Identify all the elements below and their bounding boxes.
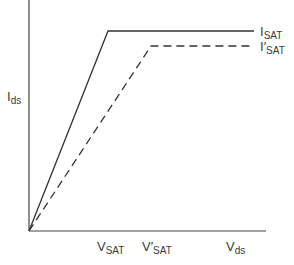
y-axis-label: Ids [7,90,21,106]
tick-label-sub: SAT [106,245,125,256]
tick-label-sub: SAT [153,245,172,256]
dashed-curve-isat-prime [29,46,254,231]
curve-label-isat-prime: I′SAT [260,40,285,56]
tick-label-main: V [97,239,106,254]
diagram-canvas [0,0,294,265]
x-axis-label: Vds [226,240,245,256]
y-axis-label-sub: ds [11,95,22,106]
tick-label-main: V [142,239,151,254]
x-axis-label-main: V [226,239,235,254]
x-tick-label-vsat-prime: V′SAT [142,240,172,256]
curve-label-sub: SAT [266,45,285,56]
solid-curve-isat [29,31,254,231]
x-tick-label-vsat: VSAT [97,240,124,256]
x-axis-label-sub: ds [235,245,246,256]
